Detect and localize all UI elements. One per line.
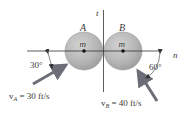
center-dot-a	[82, 49, 86, 53]
sphere-b-label: B	[119, 22, 125, 33]
sphere-a-label: A	[79, 22, 87, 33]
angle-label-b: 60°	[149, 62, 162, 72]
collision-diagram: A B m m t n 30° 60° vA = 30 ft/s vB = 40…	[0, 0, 191, 114]
t-axis-label: t	[96, 8, 99, 18]
velocity-label-a: vA = 30 ft/s	[9, 91, 50, 102]
n-axis-label: n	[173, 50, 178, 60]
mass-label-a: m	[80, 39, 87, 49]
angle-arc-a	[48, 53, 52, 68]
center-dot-b	[121, 49, 125, 53]
velocity-arrow-b	[138, 71, 157, 101]
mass-label-b: m	[119, 39, 126, 49]
velocity-label-b: vB = 40 ft/s	[101, 98, 142, 109]
angle-label-a: 30°	[30, 60, 43, 70]
